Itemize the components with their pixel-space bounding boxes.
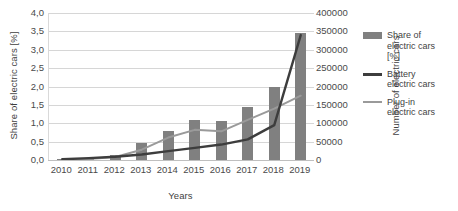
x-axis-title: Years (48, 190, 313, 201)
y-tick-label-left: 4,0 (31, 8, 44, 18)
y-axis-ticks-right: 4000003500003000002500002000001500001000… (316, 0, 358, 211)
line-series-overlay (49, 13, 314, 160)
x-tick-label: 2012 (104, 164, 125, 175)
y-tick-label-left: 3,5 (31, 27, 44, 37)
y-axis-ticks-left: 4,03,53,02,52,01,51,00,50,0 (14, 0, 44, 211)
y-tick-label-right: 300000 (316, 45, 348, 55)
y-tick-label-right: 100000 (316, 119, 348, 129)
legend-label-line: Share of (387, 30, 458, 41)
y-tick-label-right: 250000 (316, 63, 348, 73)
y-tick-label-left: 2,0 (31, 82, 44, 92)
y-tick-label-right: 200000 (316, 82, 348, 92)
y-tick-label-right: 0 (316, 155, 321, 165)
plot-area (48, 13, 314, 160)
x-tick-label: 2016 (210, 164, 231, 175)
y-tick-label-right: 150000 (316, 100, 348, 110)
y-tick-label-left: 1,0 (31, 119, 44, 129)
legend-label-line: Battery (387, 69, 458, 80)
x-tick-label: 2014 (157, 164, 178, 175)
legend-label-line: Plug-in (387, 97, 458, 108)
legend-item[interactable]: Share ofelectric cars[%] (363, 30, 458, 62)
x-tick-label: 2011 (78, 164, 98, 175)
chart-container: Share of electric cars [%] Number of ele… (0, 0, 458, 211)
legend-item-label: Plug-inelectric cars (387, 97, 458, 118)
x-tick-label: 2017 (236, 164, 257, 175)
x-tick-label: 2015 (183, 164, 204, 175)
x-tick-label: 2010 (51, 164, 72, 175)
x-axis-line (48, 160, 314, 161)
legend-label-line: electric cars (387, 107, 458, 118)
legend-item[interactable]: Plug-inelectric cars (363, 97, 458, 118)
x-axis-ticks: 2010201120122013201420152016201720182019 (48, 164, 313, 180)
y-tick-label-right: 400000 (316, 8, 348, 18)
legend-swatch-icon (363, 73, 382, 76)
legend-label-line: [%] (387, 51, 458, 62)
legend-label-line: electric cars (387, 41, 458, 52)
y-tick-label-left: 1,5 (31, 100, 44, 110)
legend-item[interactable]: Batteryelectric cars (363, 69, 458, 90)
y-tick-label-right: 350000 (316, 27, 348, 37)
x-tick-label: 2018 (263, 164, 284, 175)
x-tick-label: 2013 (130, 164, 151, 175)
y-tick-label-right: 50000 (316, 137, 342, 147)
y-tick-label-left: 0,5 (31, 137, 44, 147)
legend-swatch-icon (363, 32, 382, 39)
line-battery-electric-cars (62, 35, 301, 159)
chart-legend: Share ofelectric cars[%]Batteryelectric … (363, 30, 458, 125)
y-tick-label-left: 0,0 (31, 155, 44, 165)
legend-item-label: Batteryelectric cars (387, 69, 458, 90)
legend-item-label: Share ofelectric cars[%] (387, 30, 458, 62)
x-tick-label: 2019 (289, 164, 310, 175)
legend-swatch-icon (363, 101, 382, 103)
y-tick-label-left: 2,5 (31, 63, 44, 73)
y-tick-label-left: 3,0 (31, 45, 44, 55)
legend-label-line: electric cars (387, 79, 458, 90)
